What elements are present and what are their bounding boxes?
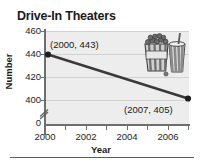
data-point-2007 <box>185 95 191 101</box>
popcorn-and-soda-illustration <box>139 31 191 78</box>
drive-in-theaters-figure: Drive-In Theaters 460 440 420 400 0 2000… <box>0 0 202 163</box>
data-point-2000 <box>45 51 51 57</box>
data-point-label-2007: (2007, 405) <box>124 104 173 115</box>
data-series-line <box>0 0 202 163</box>
data-point-label-2000: (2000, 443) <box>50 39 99 50</box>
bottom-divider <box>10 157 194 158</box>
